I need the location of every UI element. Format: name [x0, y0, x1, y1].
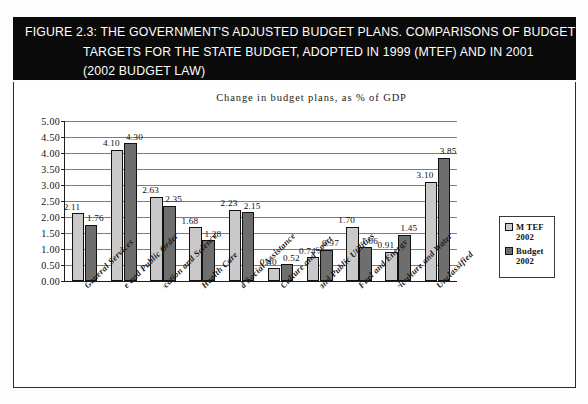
y-axis-tick-label: 4.50: [41, 132, 60, 143]
y-axis-tick-label: 3.00: [41, 180, 60, 191]
y-axis-tick-label: 0.50: [41, 260, 60, 271]
y-axis-tick-label: 2.50: [41, 196, 60, 207]
y-axis-tick-label: 0.00: [41, 276, 60, 287]
legend-year-budget: 2002: [505, 256, 554, 267]
y-axis-tick-label: 3.50: [41, 164, 60, 175]
bar-budget: [124, 143, 137, 281]
figure-container: FIGURE 2.3: THE GOVERNMENT'S ADJUSTED BU…: [0, 0, 588, 404]
bar-budget: [438, 158, 451, 281]
y-axis-tick-label: 5.00: [41, 116, 60, 127]
legend-label-mtef: M TEF: [516, 222, 544, 232]
legend-item-budget: Budget 2002: [505, 246, 554, 267]
bar-value-label: 1.76: [87, 213, 104, 223]
legend-swatch-budget-icon: [505, 247, 513, 255]
legend-swatch-mtef-icon: [505, 223, 513, 231]
y-axis-tick-mark: [61, 281, 65, 282]
bars-layer: 2.111.764.104.302.632.351.681.282.232.15…: [65, 121, 457, 281]
y-axis-tick-label: 1.00: [41, 244, 60, 255]
bar-value-label: 2.11: [64, 202, 81, 212]
bar-value-label: 2.15: [244, 201, 261, 211]
chart-legend: M TEF 2002 Budget 2002: [499, 216, 555, 278]
bar-value-label: 4.30: [126, 132, 143, 142]
bar-value-label: 3.85: [440, 146, 457, 156]
bar-mtef: [425, 182, 438, 281]
chart-plot-wrapper: 0.000.501.001.502.002.503.003.504.004.50…: [14, 82, 577, 388]
bar-value-label: 2.63: [142, 185, 159, 195]
figure-caption-banner: FIGURE 2.3: THE GOVERNMENT'S ADJUSTED BU…: [13, 17, 576, 80]
x-axis-category-labels: General ServicesDefense and Public Order…: [64, 283, 456, 383]
caption-line-2: TARGETS FOR THE STATE BUDGET, ADOPTED IN…: [25, 43, 566, 63]
caption-line-1: FIGURE 2.3: THE GOVERNMENT'S ADJUSTED BU…: [25, 23, 566, 43]
bar-value-label: 4.10: [103, 138, 120, 148]
bar-mtef: [150, 197, 163, 281]
bar-value-label: 3.10: [417, 170, 434, 180]
bar-mtef: [72, 213, 85, 281]
legend-item-mtef: M TEF 2002: [505, 222, 554, 243]
y-axis-tick-label: 4.00: [41, 148, 60, 159]
bar-group: 2.111.76: [65, 121, 104, 281]
bar-value-label: 2.23: [221, 198, 238, 208]
legend-label-budget: Budget: [516, 246, 543, 256]
figure-body-frame: Change in budget plans, as % of GDP 0.00…: [13, 82, 576, 388]
chart-plot-area: 0.000.501.001.502.002.503.003.504.004.50…: [64, 121, 457, 282]
bar-mtef: [268, 268, 281, 281]
caption-line-3: (2002 BUDGET LAW): [25, 62, 566, 82]
bar-value-label: 0.52: [283, 253, 300, 263]
legend-year-mtef: 2002: [505, 232, 554, 243]
y-axis-tick-label: 2.00: [41, 212, 60, 223]
bar-value-label: 1.70: [338, 215, 355, 225]
bar-value-label: 2.35: [165, 194, 182, 204]
y-axis-tick-label: 1.50: [41, 228, 60, 239]
bar-value-label: 1.68: [181, 216, 198, 226]
